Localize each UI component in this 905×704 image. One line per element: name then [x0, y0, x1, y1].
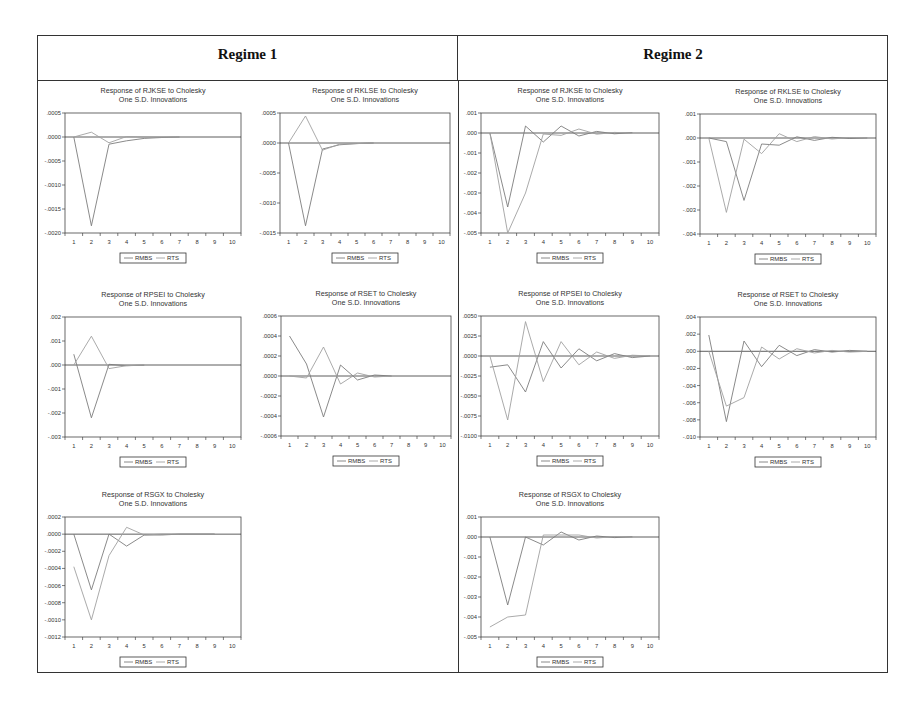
- x-tick-label: 7: [813, 443, 816, 449]
- x-tick-label: 8: [407, 442, 410, 448]
- x-tick-label: 3: [322, 442, 325, 448]
- x-tick-label: 1: [488, 643, 491, 649]
- x-tick-label: 4: [760, 240, 764, 246]
- x-tick-label: 3: [524, 239, 527, 245]
- x-tick-label: 8: [406, 239, 409, 245]
- y-tick-label: .0004: [262, 333, 277, 339]
- chart-legend: RMBSRTS: [755, 457, 821, 467]
- x-tick-label: 2: [725, 443, 728, 449]
- x-tick-label: 10: [229, 443, 235, 449]
- y-tick-label: .0005: [46, 110, 61, 116]
- legend-label-rts: RTS: [802, 459, 814, 465]
- y-tick-label: -.003: [48, 434, 61, 440]
- x-tick-label: 1: [707, 443, 710, 449]
- y-tick-label: -.0100: [461, 433, 477, 439]
- x-tick-label: 2: [506, 239, 509, 245]
- x-tick-label: 8: [195, 643, 198, 649]
- x-tick-label: 5: [143, 643, 146, 649]
- legend-label-rts: RTS: [167, 255, 179, 261]
- y-tick-label: .000: [466, 534, 477, 540]
- y-tick-label: -.0005: [260, 170, 276, 176]
- chart-title: Response of RKLSE to Cholesky: [312, 86, 418, 95]
- y-tick-label: -.0008: [45, 600, 61, 606]
- y-tick-label: -.002: [683, 365, 696, 371]
- x-tick-label: 4: [760, 443, 764, 449]
- x-tick-label: 1: [707, 240, 710, 246]
- x-tick-label: 9: [631, 239, 634, 245]
- y-tick-label: -.003: [464, 190, 477, 196]
- y-tick-label: .000: [685, 348, 696, 354]
- y-tick-label: -.0006: [45, 583, 61, 589]
- y-tick-label: .001: [685, 111, 696, 117]
- y-tick-label: -.004: [464, 210, 478, 216]
- y-tick-label: -.001: [48, 386, 61, 392]
- chart-legend: RMBSRTS: [537, 253, 603, 263]
- x-tick-label: 9: [213, 443, 216, 449]
- y-tick-label: -.002: [464, 170, 477, 176]
- y-tick-label: .0000: [46, 531, 61, 537]
- chart-subtitle: One S.D. Innovations: [119, 499, 188, 508]
- x-tick-label: 10: [647, 643, 653, 649]
- y-tick-label: .001: [466, 514, 477, 520]
- chart-legend: RMBSRTS: [120, 253, 186, 263]
- y-tick-label: -.001: [464, 554, 477, 560]
- chart-title: Response of RSGX to Cholesky: [102, 490, 205, 499]
- y-tick-label: -.0020: [45, 230, 61, 236]
- y-tick-label: -.008: [683, 417, 696, 423]
- x-tick-label: 6: [577, 442, 580, 448]
- x-tick-label: 1: [488, 442, 491, 448]
- y-tick-label: .0002: [262, 353, 277, 359]
- y-tick-label: -.003: [683, 207, 696, 213]
- y-tick-label: -.0025: [461, 373, 477, 379]
- x-tick-label: 1: [488, 239, 491, 245]
- y-tick-label: .0000: [261, 140, 276, 146]
- chart-r2-rklse: Response of RKLSE to CholeskyOne S.D. In…: [683, 87, 876, 264]
- x-tick-label: 2: [725, 240, 728, 246]
- chart-subtitle: One S.D. Innovations: [119, 95, 188, 104]
- legend-label-rts: RTS: [380, 458, 392, 464]
- y-tick-label: .0050: [462, 313, 477, 319]
- plot-area: [700, 317, 876, 437]
- legend-label-rts: RTS: [167, 659, 179, 665]
- x-tick-label: 9: [848, 443, 851, 449]
- chart-subtitle: One S.D. Innovations: [754, 96, 823, 105]
- y-tick-label: .002: [685, 331, 696, 337]
- x-tick-label: 4: [542, 643, 546, 649]
- chart-legend: RMBSRTS: [120, 657, 186, 667]
- y-tick-label: -.0075: [461, 413, 477, 419]
- y-tick-label: .0006: [262, 313, 277, 319]
- chart-title: Response of RSGX to Cholesky: [519, 490, 622, 499]
- x-tick-label: 10: [647, 442, 653, 448]
- x-tick-label: 8: [613, 643, 616, 649]
- y-tick-label: -.0015: [260, 230, 276, 236]
- x-tick-label: 7: [178, 239, 181, 245]
- x-tick-label: 6: [160, 443, 163, 449]
- legend-label-rmbs: RMBS: [348, 458, 365, 464]
- x-tick-label: 2: [90, 443, 93, 449]
- x-tick-label: 2: [90, 239, 93, 245]
- chart-subtitle: One S.D. Innovations: [332, 298, 401, 307]
- x-tick-label: 4: [125, 443, 129, 449]
- x-tick-label: 7: [595, 442, 598, 448]
- x-tick-label: 2: [304, 239, 307, 245]
- x-tick-label: 10: [864, 443, 870, 449]
- x-tick-label: 10: [647, 239, 653, 245]
- x-tick-label: 7: [178, 443, 181, 449]
- legend-label-rts: RTS: [584, 255, 596, 261]
- x-tick-label: 2: [506, 442, 509, 448]
- chart-r1-rpsei: Response of RPSEI to CholeskyOne S.D. In…: [48, 290, 241, 467]
- chart-subtitle: One S.D. Innovations: [331, 95, 400, 104]
- x-tick-label: 3: [321, 239, 324, 245]
- y-tick-label: .001: [50, 338, 61, 344]
- impulse-response-charts: Response of RJKSE to CholeskyOne S.D. In…: [0, 0, 905, 704]
- y-tick-label: .000: [50, 362, 61, 368]
- x-tick-label: 4: [125, 239, 129, 245]
- x-tick-label: 10: [438, 239, 444, 245]
- x-tick-label: 7: [390, 442, 393, 448]
- y-tick-label: -.0004: [45, 565, 62, 571]
- y-tick-label: -.005: [464, 230, 477, 236]
- y-tick-label: -.005: [464, 634, 477, 640]
- x-tick-label: 10: [229, 239, 235, 245]
- x-tick-label: 8: [613, 239, 616, 245]
- chart-subtitle: One S.D. Innovations: [754, 299, 823, 308]
